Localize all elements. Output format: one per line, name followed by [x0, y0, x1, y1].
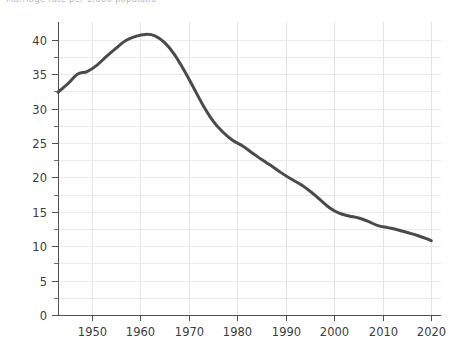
data-series [58, 34, 431, 240]
y-tick-label: 35 [32, 68, 47, 82]
x-tick-label: 2000 [320, 325, 349, 339]
line-chart-plot: 0510152025303540 19501960197019801990200… [0, 0, 452, 356]
x-tick-label: 1970 [175, 325, 204, 339]
x-tick-label: 2010 [369, 325, 398, 339]
y-tick-label: 5 [40, 275, 47, 289]
x-tick-label: 1960 [126, 325, 155, 339]
y-tick-label: 25 [32, 137, 47, 151]
y-tick-label: 30 [32, 103, 47, 117]
y-tick-label: 40 [32, 34, 47, 48]
x-tick-label: 2020 [417, 325, 446, 339]
vertical-gridlines [93, 22, 432, 315]
axis-ticks [52, 41, 432, 322]
x-tick-label: 1980 [223, 325, 252, 339]
x-tick-label: 1950 [78, 325, 107, 339]
x-axis-tick-labels: 19501960197019801990200020102020 [78, 325, 446, 339]
y-tick-label: 20 [32, 171, 47, 185]
y-axis-tick-labels: 0510152025303540 [32, 34, 47, 323]
chart-figure: Marriage rate per 1,000 population 05101… [0, 0, 452, 356]
y-tick-label: 10 [32, 240, 47, 254]
y-tick-label: 0 [40, 309, 47, 323]
x-tick-label: 1990 [272, 325, 301, 339]
series-line-rate [58, 34, 431, 240]
y-tick-label: 15 [32, 206, 47, 220]
